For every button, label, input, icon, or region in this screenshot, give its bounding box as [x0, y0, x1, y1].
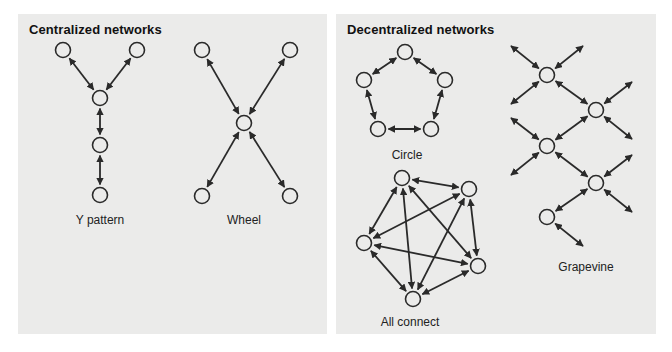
circle-diagram	[357, 45, 453, 137]
bidirectional-arrow	[434, 90, 442, 119]
grapevine-label: Grapevine	[558, 260, 613, 274]
network-node	[471, 259, 486, 274]
network-node	[589, 103, 604, 118]
bidirectional-arrow	[556, 81, 588, 104]
network-node	[371, 122, 386, 137]
network-node	[357, 73, 372, 88]
all-connect-diagram	[357, 171, 486, 307]
bidirectional-arrow	[422, 271, 468, 294]
bidirectional-arrow	[604, 155, 632, 177]
bidirectional-arrow	[207, 59, 239, 114]
network-node	[395, 171, 410, 186]
network-diagrams	[0, 0, 672, 352]
network-node	[130, 43, 145, 58]
bidirectional-arrow	[207, 132, 239, 187]
bidirectional-arrow	[511, 46, 539, 68]
bidirectional-arrow	[374, 245, 467, 264]
bidirectional-arrow	[604, 190, 632, 212]
bidirectional-arrow	[604, 117, 632, 139]
bidirectional-arrow	[414, 58, 437, 74]
bidirectional-arrow	[373, 58, 397, 74]
wheel-label: Wheel	[227, 213, 261, 227]
network-node	[398, 45, 413, 60]
bidirectional-arrow	[556, 189, 588, 211]
network-node	[93, 138, 108, 153]
network-node	[424, 122, 439, 137]
network-node	[283, 189, 298, 204]
network-node	[56, 43, 71, 58]
grapevine-diagram	[511, 46, 632, 246]
bidirectional-arrow	[412, 180, 458, 188]
network-node	[462, 182, 477, 197]
network-node	[283, 43, 298, 58]
y-pattern-diagram	[56, 43, 145, 203]
wheel-diagram	[195, 43, 298, 204]
network-node	[540, 68, 555, 83]
network-node	[540, 139, 555, 154]
network-node	[540, 210, 555, 225]
network-node	[406, 292, 421, 307]
bidirectional-arrow	[555, 116, 587, 140]
bidirectional-arrow	[403, 188, 412, 288]
network-node	[195, 43, 210, 58]
all-connect-label: All connect	[381, 315, 440, 329]
bidirectional-arrow	[511, 82, 539, 104]
network-node	[589, 176, 604, 191]
network-node	[93, 91, 108, 106]
bidirectional-arrow	[555, 224, 583, 246]
bidirectional-arrow	[106, 58, 130, 89]
bidirectional-arrow	[555, 46, 583, 68]
network-node	[438, 73, 453, 88]
bidirectional-arrow	[371, 251, 406, 291]
y-pattern-label: Y pattern	[76, 213, 124, 227]
network-node	[93, 188, 108, 203]
bidirectional-arrow	[470, 199, 477, 255]
circle-label: Circle	[392, 148, 423, 162]
bidirectional-arrow	[250, 59, 285, 114]
network-node	[357, 236, 372, 251]
network-node	[195, 189, 210, 204]
bidirectional-arrow	[604, 82, 632, 104]
bidirectional-arrow	[555, 152, 587, 176]
bidirectional-arrow	[250, 132, 285, 187]
bidirectional-arrow	[69, 58, 93, 89]
bidirectional-arrow	[511, 118, 539, 140]
bidirectional-arrow	[511, 153, 539, 175]
bidirectional-arrow	[367, 90, 375, 119]
network-node	[237, 116, 252, 131]
bidirectional-arrow	[369, 187, 396, 234]
